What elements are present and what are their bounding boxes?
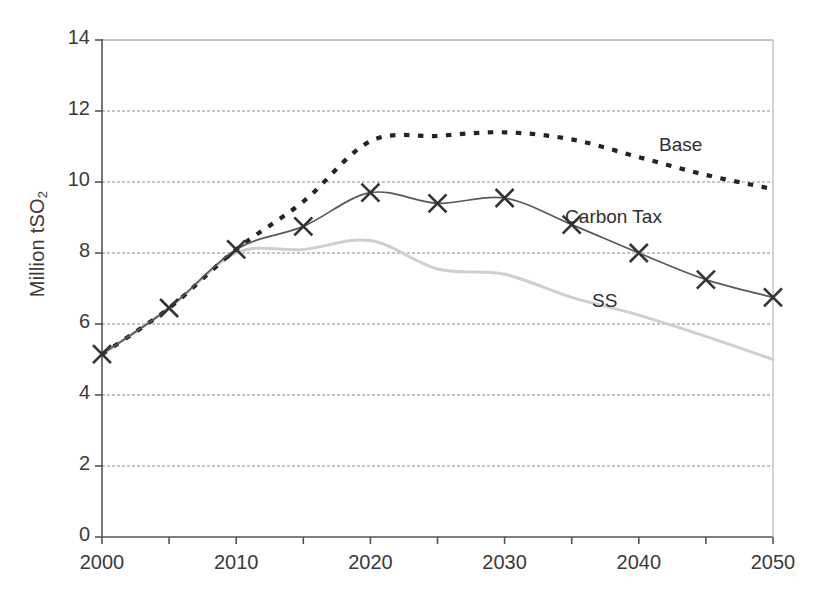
series-label-carbon-tax: Carbon Tax	[565, 206, 662, 228]
data-point-marker	[160, 299, 178, 317]
series-label-base: Base	[659, 134, 702, 156]
chart-container: Million tSO2 02468101214 200020102020203…	[0, 0, 819, 606]
series-line-ss	[102, 240, 773, 360]
series-ss	[102, 240, 773, 360]
series-base	[102, 132, 773, 354]
series-line-base	[102, 132, 773, 354]
series-label-ss: SS	[592, 290, 617, 312]
data-point-marker	[294, 217, 312, 235]
series-line-carbon-tax	[102, 192, 773, 354]
data-point-marker	[697, 271, 715, 289]
series-carbon-tax	[93, 184, 782, 364]
plot-area	[0, 0, 819, 606]
